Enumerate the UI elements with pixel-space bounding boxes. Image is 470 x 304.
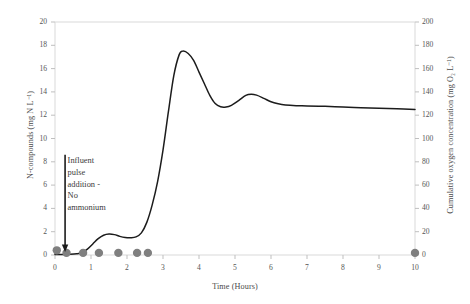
data-point-marker (114, 249, 122, 257)
data-point-marker (53, 246, 61, 254)
data-point-marker (411, 249, 419, 257)
data-point-marker (133, 249, 141, 257)
series-line-cumulative-oxygen (55, 51, 415, 254)
data-point-marker (62, 249, 70, 257)
data-point-marker (79, 249, 87, 257)
annotation-influent-pulse: Influent pulse addition - No ammonium (68, 155, 106, 213)
data-point-marker (95, 249, 103, 257)
chart-figure: N-compounds (mg N L⁻¹) Cumulative oxygen… (0, 0, 470, 304)
data-point-marker (144, 249, 152, 257)
plot-canvas (0, 0, 470, 304)
